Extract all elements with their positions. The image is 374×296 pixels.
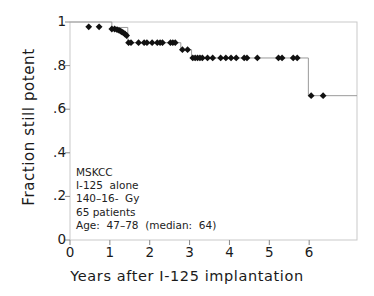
censored-marker <box>85 23 92 30</box>
y-tick-label: .6 <box>38 100 66 116</box>
censored-marker <box>279 55 286 62</box>
x-tick-label: 3 <box>175 244 205 260</box>
y-tick-label: .2 <box>38 187 66 203</box>
x-tick-label: 1 <box>95 244 125 260</box>
survival-chart-figure: Fraction still potent 0.2.4.6.81 Years a… <box>0 0 374 296</box>
x-tick-label: 6 <box>294 244 324 260</box>
censored-marker <box>320 92 327 99</box>
censored-marker <box>96 23 103 30</box>
x-tick-label: 4 <box>214 244 244 260</box>
annotation-line: I-125 alone <box>76 179 216 192</box>
censored-marker <box>184 46 191 53</box>
x-tick-label: 5 <box>254 244 284 260</box>
annotation-line: 65 patients <box>76 206 216 219</box>
y-tick-label: .4 <box>38 144 66 160</box>
censored-marker <box>294 55 301 62</box>
censored-marker <box>233 55 240 62</box>
chart-annotation-text: MSKCCI-125 alone140–16- Gy65 patientsAge… <box>76 166 216 232</box>
censored-marker <box>209 55 216 62</box>
y-tick-label: 1 <box>38 13 66 29</box>
annotation-line: Age: 47–78 (median: 64) <box>76 219 216 232</box>
censored-marker <box>254 55 261 62</box>
x-tick-label: 0 <box>55 244 85 260</box>
annotation-line: MSKCC <box>76 166 216 179</box>
x-tick-label: 2 <box>135 244 165 260</box>
y-tick-label: .8 <box>38 57 66 73</box>
x-axis-title: Years after I-125 implantation <box>0 268 374 284</box>
annotation-line: 140–16- Gy <box>76 192 216 205</box>
